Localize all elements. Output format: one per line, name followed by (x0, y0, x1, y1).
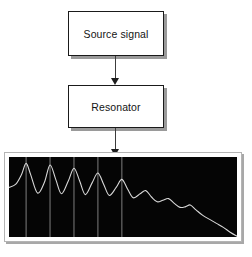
arrow-shaft (115, 56, 116, 79)
spectrum-plot-canvas (9, 157, 237, 237)
spectrum-plot-svg (9, 157, 237, 237)
process-box-source-signal-label: Source signal (84, 28, 149, 40)
spectrum-plot-frame (4, 152, 242, 242)
arrow-head (111, 78, 119, 85)
spectrum-gridlines (26, 157, 122, 237)
arrow-shaft (115, 128, 116, 150)
resonator-flow-figure: Source signal Resonator (0, 0, 252, 257)
spectrum-trace (9, 163, 237, 236)
process-box-resonator[interactable]: Resonator (68, 85, 164, 128)
process-box-source-signal[interactable]: Source signal (68, 11, 164, 56)
process-box-resonator-label: Resonator (91, 101, 140, 113)
arrow-source-to-resonator-icon (109, 56, 123, 85)
